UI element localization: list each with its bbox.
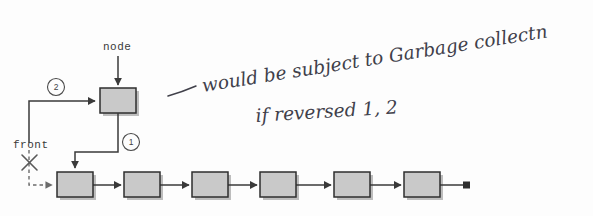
- null-terminator: [463, 182, 470, 189]
- figure-canvas: front node 2 1 would be subject to Garba…: [0, 0, 593, 216]
- step-1-arrow: [75, 113, 118, 168]
- step-badge-1: 1: [123, 134, 140, 151]
- step-badge-1-label: 1: [129, 137, 134, 147]
- annotation-dash-stroke: [168, 86, 196, 96]
- node-label: node: [103, 41, 131, 53]
- chain-box-shadows: [60, 175, 443, 200]
- front-pointer-path: [22, 150, 52, 185]
- chain-box-1: [57, 172, 93, 197]
- step-badge-2-label: 2: [54, 82, 59, 92]
- step-badge-2: 2: [48, 79, 65, 96]
- node-box: [100, 88, 136, 113]
- handwritten-annotation: would be subject to Garbage collectn if …: [168, 21, 549, 126]
- annotation-line-2: if reversed 1, 2: [255, 96, 398, 126]
- chain-box-4: [260, 172, 296, 197]
- chain-box-5: [334, 172, 370, 197]
- annotation-line-1: would be subject to Garbage collectn: [200, 21, 548, 96]
- chain-box-2: [124, 172, 160, 197]
- front-label: front: [13, 139, 49, 151]
- linked-list-diagram: front node 2 1 would be subject to Garba…: [0, 0, 593, 216]
- step-2-arrow: [29, 101, 95, 143]
- chain-box-6: [404, 172, 440, 197]
- chain-box-3: [192, 172, 228, 197]
